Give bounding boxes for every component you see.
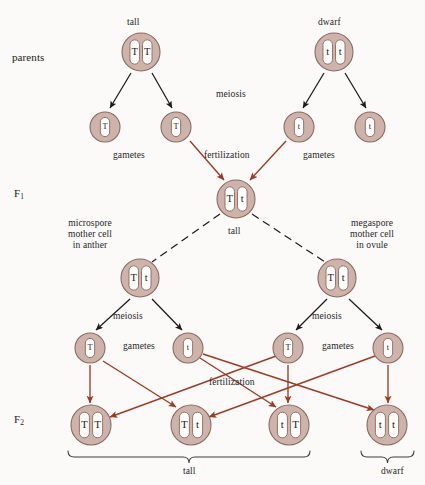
allele-label: t [339, 46, 342, 57]
gametes-left-p: gametes [113, 150, 145, 161]
allele-label: T [87, 343, 92, 352]
allele-label: T [94, 418, 101, 430]
microspore-label: microspore mother cell in anther [68, 218, 112, 251]
allele-label: t [326, 46, 329, 57]
cell-membrane [367, 405, 407, 445]
stage-label-f2: F2 [14, 414, 24, 426]
cell-gamete-f1-1: T [75, 333, 105, 363]
allele-label: T [285, 343, 290, 352]
allele-label: t [196, 418, 199, 430]
cell-f1-zygote: Tt [217, 180, 255, 218]
allele-label: T [131, 272, 138, 283]
dashed-connector [152, 214, 220, 262]
phenotype-bracket [68, 451, 310, 463]
cell-gamete-p-1: T [90, 112, 120, 142]
cell-f2-zygote-4: tt [367, 405, 407, 445]
cell-membrane [318, 259, 356, 297]
stage-label-subscript: 2 [20, 418, 24, 427]
meiosis-arrow [349, 299, 382, 330]
allele-label: T [144, 46, 151, 57]
f1-tall-label: tall [228, 226, 241, 237]
meiosis-parents: meiosis [216, 89, 246, 100]
fertilization-arrow [250, 141, 286, 180]
meiosis-arrow [303, 73, 324, 108]
allele-label: T [102, 122, 107, 131]
fertilization-arrow [103, 361, 176, 407]
allele-label: T [292, 418, 299, 430]
fertilization-p: fertilization [204, 150, 250, 161]
dwarf-bracket-label: dwarf [381, 466, 404, 477]
allele-label: t [379, 418, 382, 430]
allele-label: T [181, 418, 188, 430]
tall-bracket-label: tall [183, 466, 196, 477]
gametes-left-f1: gametes [123, 341, 155, 352]
gametes-right-p: gametes [303, 150, 335, 161]
allele-label: t [281, 418, 284, 430]
meiosis-arrow [152, 73, 172, 108]
allele-label: T [81, 418, 88, 430]
cell-microspore-mother-cell: Tt [121, 259, 159, 297]
cell-f2-zygote-1: TT [71, 405, 111, 445]
stage-label-parents: parents [12, 52, 44, 63]
gametes-right-f1: gametes [322, 341, 354, 352]
allele-label: T [173, 122, 178, 131]
dashed-connector-layer [152, 214, 325, 262]
meiosis-arrow [110, 73, 131, 108]
cell-parent-dwarf: tt [315, 33, 353, 71]
cell-gamete-p-2: T [161, 112, 191, 142]
phenotype-bracket [361, 451, 414, 463]
allele-label: t [241, 193, 244, 204]
stage-label-f1: F1 [14, 188, 24, 200]
cell-membrane [122, 33, 160, 71]
meiosis-arrow [345, 73, 366, 108]
allele-label: T [227, 193, 234, 204]
cell-gamete-f1-3: T [273, 333, 303, 363]
cell-membrane [315, 33, 353, 71]
cell-membrane [171, 405, 211, 445]
cell-megaspore-mother-cell: Tt [318, 259, 356, 297]
cell-gamete-p-4: t [355, 112, 385, 142]
genetics-diagram: TTttTTttTtTtTtTtTtTTTttTtt parentsF1F2ta… [0, 0, 425, 485]
cell-gamete-f1-4: t [373, 333, 403, 363]
cell-f2-zygote-2: Tt [171, 405, 211, 445]
brackets-layer [68, 451, 414, 463]
cell-membrane [71, 405, 111, 445]
cell-membrane [121, 259, 159, 297]
allele-label: t [392, 418, 395, 430]
tall-parent-label: tall [127, 17, 140, 28]
cell-parent-tall: TT [122, 33, 160, 71]
cell-membrane [269, 405, 309, 445]
dwarf-parent-label: dwarf [318, 17, 341, 28]
meiosis-left-f1: meiosis [113, 311, 143, 322]
fertilization-f1: fertilization [209, 377, 255, 388]
cell-f2-zygote-3: tT [269, 405, 309, 445]
meiosis-arrow [152, 299, 182, 330]
meiosis-right-f1: meiosis [312, 311, 342, 322]
allele-label: T [132, 46, 139, 57]
cell-gamete-f1-2: t [173, 333, 203, 363]
dashed-connector [252, 214, 325, 262]
allele-label: t [342, 272, 345, 283]
stage-label-subscript: 1 [20, 192, 24, 201]
allele-label: t [145, 272, 148, 283]
cell-membrane [217, 180, 255, 218]
allele-label: T [328, 272, 335, 283]
cell-gamete-p-3: t [284, 112, 314, 142]
megaspore-label: megaspore mother cell in ovule [350, 218, 394, 251]
